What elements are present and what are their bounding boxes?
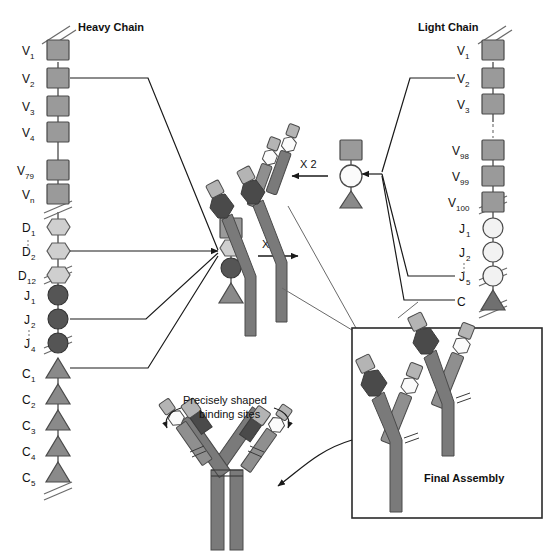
light-v-sub-99: 99 (460, 178, 469, 187)
light-c-triangle (481, 290, 505, 310)
heavy-v-label-1: V (22, 44, 30, 58)
light-v-label-98: V (452, 144, 460, 158)
heavy-v-sub-3: 3 (30, 108, 35, 117)
heavy-v-sub-4: 4 (30, 134, 35, 143)
light-v-sub-100: 100 (456, 204, 470, 213)
light-chain-labels: V 1 V 2 V 3 V 98 V 99 V 100 J 1 J 2 J 5 … (448, 44, 471, 309)
heavy-c-label-4: C (22, 445, 31, 459)
diagram-canvas: Heavy Chain Light Chain (0, 0, 546, 556)
assembly-connector-lines (282, 206, 418, 330)
heavy-c-sub-4: 4 (31, 453, 36, 462)
heavy-c-label-3: C (22, 419, 31, 433)
light-unit-v-square (340, 140, 362, 160)
light-c-label: C (457, 295, 466, 309)
light-multiplier-label: X 2 (300, 158, 317, 170)
heavy-d-shapes (47, 219, 70, 283)
heavy-j-label-2: J (24, 313, 30, 327)
heavy-d-sub-2: 2 (31, 253, 36, 262)
heavy-c-label-1: C (22, 367, 31, 381)
heavy-chain-labels: V 1 V 2 V 3 V 4 V 79 V n D 1 D 2 D 12 J … (17, 44, 36, 488)
light-v-label-99: V (452, 170, 460, 184)
antibody-stem-left (211, 470, 224, 550)
binding-annotation-line2: binding sites (199, 408, 261, 420)
light-unit-j-circle (340, 165, 362, 187)
antibody-gene-assembly-diagram: Heavy Chain Light Chain (0, 0, 546, 556)
heavy-c-label-5: C (22, 471, 31, 485)
light-v-label-1: V (457, 44, 465, 58)
light-v-sub-1: 1 (465, 52, 470, 61)
light-j-label-1: J (459, 222, 465, 236)
heavy-d-label-12: D (18, 269, 27, 283)
heavy-d-label-2: D (22, 245, 31, 259)
light-j-sub-2: 2 (466, 254, 471, 263)
heavy-j-sub-2: 2 (31, 321, 36, 330)
heavy-v-label-4: V (22, 126, 30, 140)
heavy-v-sub-79: 79 (25, 172, 34, 181)
heavy-v-sub-2: 2 (30, 80, 35, 89)
binding-annotation-line1: Precisely shaped (183, 394, 267, 406)
heavy-v-sub-n: n (30, 196, 34, 205)
heavy-v-label-n: V (22, 188, 30, 202)
light-duplication-arrow: X 2 (292, 158, 328, 176)
light-recombination-lines (362, 78, 455, 300)
heavy-j-sub-4: 4 (31, 345, 36, 354)
light-j-sub-1: 1 (466, 230, 471, 239)
heavy-c-sub-3: 3 (31, 427, 36, 436)
heavy-v-label-2: V (22, 72, 30, 86)
light-v-sub-98: 98 (460, 152, 469, 161)
light-v-sub-2: 2 (465, 80, 470, 89)
light-j-sub-5: 5 (466, 278, 471, 287)
antibody-stem-right (230, 470, 243, 550)
light-chain-locus: V 1 V 2 V 3 V 98 V 99 V 100 J 1 J 2 J 5 … (362, 26, 512, 318)
heavy-v-label-79: V (17, 164, 25, 178)
light-recombined-unit (340, 140, 362, 208)
light-v-sub-3: 3 (465, 106, 470, 115)
heavy-c-label-2: C (22, 393, 31, 407)
heavy-chain-title: Heavy Chain (78, 21, 144, 33)
final-assembly-box: Final Assembly (352, 312, 542, 518)
heavy-d-label-1: D (22, 221, 31, 235)
light-v-label-3: V (457, 98, 465, 112)
heavy-v-label-3: V (22, 100, 30, 114)
light-unit-c-triangle (340, 191, 362, 208)
heavy-recombination-lines (70, 78, 218, 368)
heavy-v-sub-1: 1 (30, 52, 35, 61)
light-v-label-2: V (457, 72, 465, 86)
light-v-label-100: V (448, 196, 456, 210)
heavy-j-label-1: J (24, 289, 30, 303)
heavy-j-sub-1: 1 (31, 297, 36, 306)
heavy-c-sub-5: 5 (31, 479, 36, 488)
light-j-label-2: J (459, 246, 465, 260)
heavy-d-sub-1: 1 (31, 229, 36, 238)
heavy-unit-c-triangle (219, 283, 243, 303)
heavy-j-shapes (48, 285, 68, 353)
light-j-shapes (483, 218, 503, 286)
heavy-d-sub-12: 12 (27, 277, 36, 286)
heavy-c-sub-1: 1 (31, 375, 36, 384)
final-antibody-arrow (278, 440, 352, 486)
heavy-c-shapes (46, 358, 70, 482)
heavy-c-sub-2: 2 (31, 401, 36, 410)
light-chain-title: Light Chain (418, 21, 479, 33)
final-assembly-label: Final Assembly (424, 472, 505, 484)
